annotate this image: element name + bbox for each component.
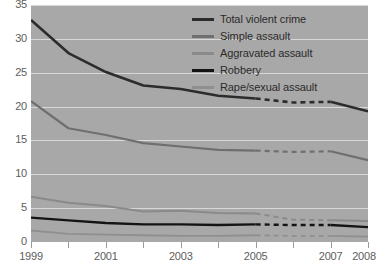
y-tick-label: 20: [0, 101, 27, 112]
y-tick-label: 35: [0, 0, 27, 10]
series-line: [31, 230, 256, 235]
x-tick-mark: [106, 242, 107, 248]
x-tick-mark: [31, 242, 32, 248]
series-line: [331, 236, 368, 237]
y-tick-label: 10: [0, 168, 27, 179]
series-line: [256, 214, 331, 221]
series-line: [31, 218, 256, 225]
legend-item-label: Aggravated assault: [220, 47, 312, 60]
x-tick-label: 2001: [94, 250, 118, 262]
y-tick-label: 15: [0, 134, 27, 145]
legend-item[interactable]: Total violent crime: [192, 12, 342, 27]
legend-line-icon: [192, 86, 214, 89]
y-tick-label: 5: [0, 202, 27, 213]
legend-line-icon: [192, 35, 214, 38]
chart-legend: Total violent crimeSimple assaultAggrava…: [192, 12, 342, 97]
x-tick-label: 2003: [169, 250, 193, 262]
x-tick-mark: [181, 242, 182, 248]
x-tick-mark: [218, 242, 219, 248]
legend-item-label: Robbery: [220, 64, 261, 77]
legend-item[interactable]: Rape/sexual assault: [192, 80, 342, 95]
y-axis: 35302520151050: [0, 0, 27, 247]
legend-item-label: Rape/sexual assault: [220, 81, 317, 94]
x-tick-mark: [143, 242, 144, 248]
series-line: [256, 224, 331, 225]
legend-line-icon: [192, 52, 214, 55]
series-line: [31, 101, 256, 150]
legend-line-icon: [192, 18, 214, 21]
series-line: [256, 151, 331, 152]
y-tick-label: 0: [0, 236, 27, 247]
legend-line-icon: [192, 69, 214, 72]
x-tick-label: 2005: [244, 250, 268, 262]
legend-item-label: Total violent crime: [220, 13, 306, 26]
legend-item-label: Simple assault: [220, 30, 290, 43]
x-tick-mark: [256, 242, 257, 248]
series-line: [256, 235, 331, 236]
x-tick-mark: [68, 242, 69, 248]
legend-item[interactable]: Robbery: [192, 63, 342, 78]
y-tick-label: 25: [0, 67, 27, 78]
x-tick-mark: [293, 242, 294, 248]
legend-item[interactable]: Simple assault: [192, 29, 342, 44]
series-line: [256, 98, 331, 102]
x-tick-label: 1999: [19, 250, 43, 262]
x-axis: 199920012003200520072008: [31, 242, 368, 266]
series-line: [331, 220, 368, 221]
series-line: [331, 225, 368, 227]
series-line: [31, 197, 256, 214]
y-tick-label: 30: [0, 33, 27, 44]
series-line: [331, 102, 368, 111]
violent-crime-rate-chart: 35302520151050 199920012003200520072008 …: [0, 0, 380, 266]
x-tick-label: 2007: [319, 250, 343, 262]
legend-item[interactable]: Aggravated assault: [192, 46, 342, 61]
x-tick-mark: [368, 242, 369, 248]
x-tick-mark: [331, 242, 332, 248]
series-line: [331, 151, 368, 160]
x-tick-label: 2008: [352, 250, 376, 262]
